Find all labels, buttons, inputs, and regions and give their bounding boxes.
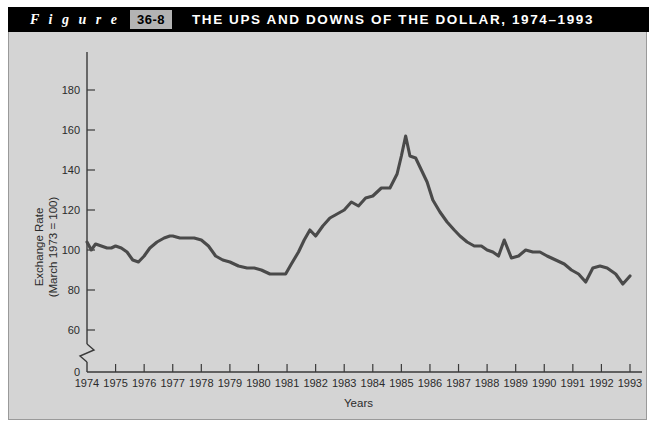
x-tick-label: 1983 bbox=[332, 377, 356, 389]
x-tick-label: 1982 bbox=[303, 377, 327, 389]
y-tick-label: 60 bbox=[68, 324, 80, 336]
figure-title: THE UPS AND DOWNS OF THE DOLLAR, 1974–19… bbox=[192, 12, 594, 27]
figure-number-badge: 36-8 bbox=[130, 10, 172, 29]
chart-panel: Exchange Rate (March 1973 = 100) 0608010… bbox=[8, 32, 647, 420]
x-tick-label: 1985 bbox=[389, 377, 413, 389]
x-tick-label: 1974 bbox=[75, 377, 99, 389]
x-axis-ticks: 1974197519761977197819791980198119821983… bbox=[75, 364, 642, 389]
x-tick-label: 1993 bbox=[618, 377, 642, 389]
x-tick-label: 1986 bbox=[418, 377, 442, 389]
y-tick-label: 120 bbox=[62, 204, 80, 216]
x-tick-label: 1975 bbox=[103, 377, 127, 389]
y-axis-break-mark bbox=[80, 344, 94, 362]
x-tick-label: 1977 bbox=[160, 377, 184, 389]
x-tick-label: 1984 bbox=[361, 377, 385, 389]
y-axis-title: Exchange Rate (March 1973 = 100) bbox=[33, 196, 59, 297]
x-tick-label: 1980 bbox=[246, 377, 270, 389]
x-tick-label: 1976 bbox=[132, 377, 156, 389]
y-axis-title-line1: Exchange Rate bbox=[33, 208, 45, 287]
x-tick-label: 1987 bbox=[446, 377, 470, 389]
y-tick-label: 100 bbox=[62, 244, 80, 256]
y-tick-label: 160 bbox=[62, 124, 80, 136]
x-tick-label: 1991 bbox=[561, 377, 585, 389]
y-axis-ticks: 06080100120140160180 bbox=[62, 84, 95, 378]
x-tick-label: 1989 bbox=[503, 377, 527, 389]
x-axis-title: Years bbox=[344, 397, 373, 409]
x-tick-label: 1992 bbox=[589, 377, 613, 389]
figure-word-label: F i g u r e bbox=[8, 12, 130, 28]
x-tick-label: 1979 bbox=[218, 377, 242, 389]
x-tick-label: 1978 bbox=[189, 377, 213, 389]
exchange-rate-line-chart: Exchange Rate (March 1973 = 100) 0608010… bbox=[9, 32, 648, 420]
figure-header-bar: F i g u r e 36-8 THE UPS AND DOWNS OF TH… bbox=[8, 7, 649, 32]
y-tick-label: 80 bbox=[68, 284, 80, 296]
x-tick-label: 1988 bbox=[475, 377, 499, 389]
x-tick-label: 1990 bbox=[532, 377, 556, 389]
y-tick-label: 140 bbox=[62, 164, 80, 176]
y-tick-label: 180 bbox=[62, 84, 80, 96]
data-series-line bbox=[87, 136, 630, 284]
y-axis-title-line2: (March 1973 = 100) bbox=[47, 196, 59, 297]
x-tick-label: 1981 bbox=[275, 377, 299, 389]
